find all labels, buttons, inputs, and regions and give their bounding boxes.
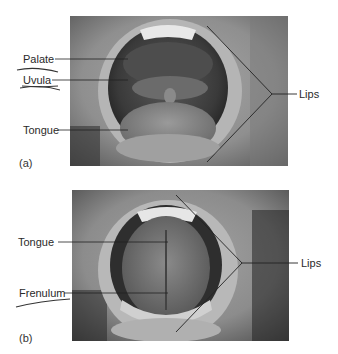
handwritten-underline-palate — [17, 68, 58, 72]
label-lips: Lips — [299, 88, 319, 100]
label-lips-b: Lips — [301, 257, 321, 269]
label-tongue-b: Tongue — [18, 236, 54, 248]
panel-b: Tongue Frenulum Lips (b) — [0, 177, 338, 354]
handwritten-underline-frenulum — [16, 299, 70, 307]
panel-letter-a: (a) — [19, 157, 32, 169]
handwritten-underline-uvula — [20, 86, 60, 90]
panel-letter-b: (b) — [19, 332, 32, 344]
label-uvula: Uvula — [23, 74, 51, 86]
label-palate: Palate — [23, 53, 54, 65]
label-tongue: Tongue — [23, 124, 59, 136]
tongue-raised-photo — [72, 190, 289, 341]
panel-a: Palate Uvula Tongue Lips (a) — [0, 0, 338, 177]
label-frenulum: Frenulum — [19, 287, 65, 299]
mouth-open-photo — [70, 16, 288, 166]
